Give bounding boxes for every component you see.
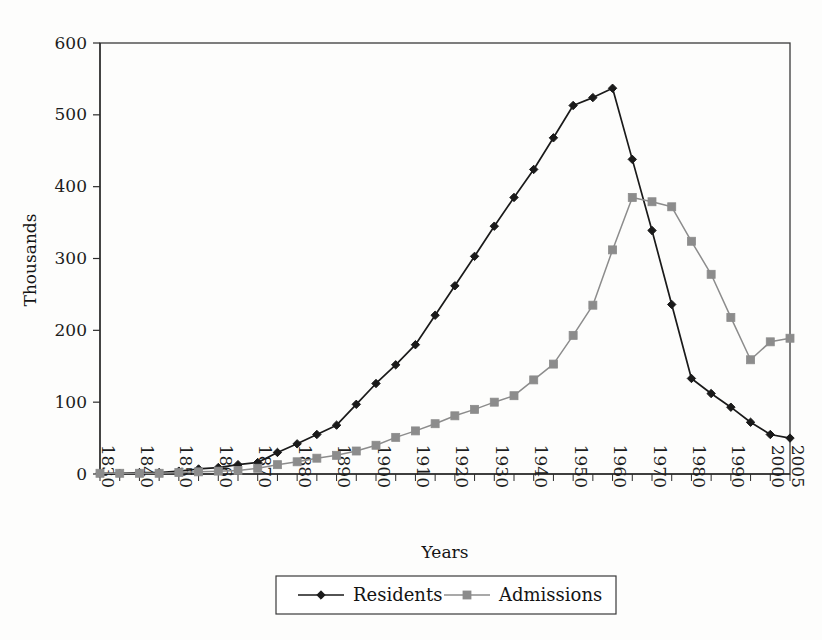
- data-point: [786, 334, 794, 342]
- data-point: [490, 398, 498, 406]
- data-point: [747, 356, 755, 364]
- data-point: [273, 461, 281, 469]
- data-point: [648, 198, 656, 206]
- data-point: [116, 469, 124, 477]
- x-tick-label: 1840: [137, 445, 157, 488]
- x-tick-label: 1950: [571, 445, 591, 488]
- data-point: [609, 246, 617, 254]
- y-tick-label: 100: [55, 392, 87, 412]
- data-point: [214, 467, 222, 475]
- data-point: [254, 464, 262, 472]
- data-point: [471, 405, 479, 413]
- legend-label: Admissions: [498, 584, 602, 605]
- data-point: [569, 101, 577, 109]
- legend-marker-square-icon: [463, 591, 471, 599]
- data-point: [648, 226, 656, 234]
- y-tick-label: 500: [55, 104, 87, 124]
- data-point: [293, 458, 301, 466]
- x-tick-label: 1900: [374, 445, 394, 488]
- data-point: [96, 469, 104, 477]
- x-tick-label: 1880: [295, 445, 315, 488]
- data-point: [392, 433, 400, 441]
- data-point: [510, 392, 518, 400]
- data-point: [668, 203, 676, 211]
- data-point: [727, 313, 735, 321]
- data-point: [628, 155, 636, 163]
- chart-legend: ResidentsAdmissions: [276, 576, 616, 614]
- series-line: [100, 88, 790, 473]
- data-point: [608, 84, 616, 92]
- x-tick-label: 1980: [689, 445, 709, 488]
- data-point: [313, 454, 321, 462]
- x-tick-label: 1940: [531, 445, 551, 488]
- data-series-layer: [96, 84, 794, 477]
- data-point: [530, 376, 538, 384]
- data-point: [589, 301, 597, 309]
- x-tick-label: 1970: [650, 445, 670, 488]
- y-axis-title: Thousands: [20, 214, 40, 307]
- series-residents: [96, 84, 794, 477]
- data-point: [155, 469, 163, 477]
- legend-label: Residents: [353, 584, 442, 605]
- x-tick-label: 2000: [768, 445, 788, 488]
- data-point: [786, 434, 794, 442]
- x-axis-title: Years: [421, 542, 469, 562]
- data-point: [313, 430, 321, 438]
- data-point: [411, 427, 419, 435]
- data-point: [175, 469, 183, 477]
- y-tick-label: 0: [76, 464, 87, 484]
- y-tick-label: 300: [55, 248, 87, 268]
- line-chart: 0100200300400500600 18301840185018601870…: [0, 0, 822, 640]
- y-tick-label: 600: [55, 33, 87, 53]
- y-tick-label: 400: [55, 176, 87, 196]
- x-tick-label: 1960: [610, 445, 630, 488]
- data-point: [135, 469, 143, 477]
- data-point: [333, 451, 341, 459]
- data-point: [668, 300, 676, 308]
- x-tick-label: 1850: [176, 445, 196, 488]
- data-point: [234, 466, 242, 474]
- data-point: [628, 193, 636, 201]
- y-axis: 0100200300400500600: [55, 33, 100, 484]
- data-point: [589, 93, 597, 101]
- data-point: [195, 468, 203, 476]
- data-point: [766, 430, 774, 438]
- data-point: [707, 270, 715, 278]
- data-point: [687, 237, 695, 245]
- x-tick-label: 1830: [98, 445, 118, 488]
- data-point: [569, 331, 577, 339]
- data-point: [766, 338, 774, 346]
- x-axis: 1830184018501860187018801890190019101920…: [98, 445, 808, 488]
- data-point: [549, 134, 557, 142]
- data-point: [451, 412, 459, 420]
- x-tick-label: 1990: [728, 445, 748, 488]
- y-tick-label: 200: [55, 320, 87, 340]
- series-line: [100, 197, 790, 473]
- data-point: [549, 360, 557, 368]
- x-tick-label: 2005: [788, 445, 808, 488]
- data-point: [352, 447, 360, 455]
- x-tick-label: 1930: [492, 445, 512, 488]
- x-tick-label: 1920: [452, 445, 472, 488]
- plot-frame: [100, 43, 790, 474]
- data-point: [372, 441, 380, 449]
- x-tick-label: 1910: [413, 445, 433, 488]
- chart-figure: 0100200300400500600 18301840185018601870…: [0, 0, 822, 640]
- data-point: [431, 420, 439, 428]
- series-admissions: [96, 193, 794, 477]
